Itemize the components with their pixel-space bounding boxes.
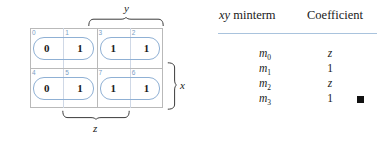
table-header-minterm-vars: xy <box>219 8 230 22</box>
minterm-subscript: 1 <box>267 68 271 77</box>
kmap-cell-6[interactable]: 6 1 <box>130 68 163 108</box>
table-row: m2 z <box>205 77 377 92</box>
table-cell-minterm: m1 <box>235 62 295 77</box>
kmap-cell-7[interactable]: 7 1 <box>97 68 130 108</box>
kmap-cell-5[interactable]: 5 1 <box>63 68 96 108</box>
kmap-figure: 0 0 1 1 3 1 2 1 4 0 5 1 7 1 6 1 <box>0 0 383 143</box>
table-cell-coefficient: z <box>305 77 355 89</box>
minterm-subscript: 2 <box>267 83 271 92</box>
table-header-row: xy minterm Coefficient <box>205 8 377 28</box>
minterm-subscript: 0 <box>267 53 271 62</box>
kmap-cell-3[interactable]: 3 1 <box>97 28 130 68</box>
table-row: m3 1 <box>205 92 377 107</box>
table-cell-coefficient: z <box>305 47 355 59</box>
kmap-cell-value: 1 <box>97 28 130 68</box>
table-header-coefficient: Coefficient <box>307 8 363 23</box>
kmap-cell-value: 1 <box>130 68 163 108</box>
table-header-minterm: xy minterm <box>219 8 276 23</box>
kmap-cell-value: 1 <box>97 68 130 108</box>
table-cell-minterm: m0 <box>235 47 295 62</box>
minterm-coefficient-table: xy minterm Coefficient m0 z m1 1 m2 z m3… <box>205 8 377 108</box>
brace-x <box>167 62 177 110</box>
brace-z <box>62 110 130 120</box>
kmap-cell-1[interactable]: 1 1 <box>63 28 96 68</box>
kmap-cell-value: 1 <box>130 28 163 68</box>
kmap-cell-value: 1 <box>63 68 96 108</box>
kmap-cell-0[interactable]: 0 0 <box>30 28 63 68</box>
kmap-cell-4[interactable]: 4 0 <box>30 68 63 108</box>
kmap-variable-label-y: y <box>124 3 129 14</box>
table-cell-coefficient: 1 <box>305 62 355 74</box>
table-row: m0 z <box>205 47 377 62</box>
table-header-minterm-word: minterm <box>230 8 275 22</box>
kmap-cell-value: 0 <box>30 28 63 68</box>
brace-y <box>88 17 164 27</box>
karnaugh-map: 0 0 1 1 3 1 2 1 4 0 5 1 7 1 6 1 <box>30 28 163 108</box>
qed-square-icon <box>357 96 364 103</box>
kmap-variable-label-z: z <box>93 123 97 134</box>
kmap-cell-2[interactable]: 2 1 <box>130 28 163 68</box>
table-row: m1 1 <box>205 62 377 77</box>
table-cell-coefficient: 1 <box>305 92 355 104</box>
kmap-cell-value: 1 <box>63 28 96 68</box>
kmap-variable-label-x: x <box>180 80 185 91</box>
table-cell-minterm: m3 <box>235 92 295 107</box>
table-header-rule <box>218 33 377 34</box>
kmap-cell-value: 0 <box>30 68 63 108</box>
table-cell-minterm: m2 <box>235 77 295 92</box>
minterm-subscript: 3 <box>267 98 271 107</box>
